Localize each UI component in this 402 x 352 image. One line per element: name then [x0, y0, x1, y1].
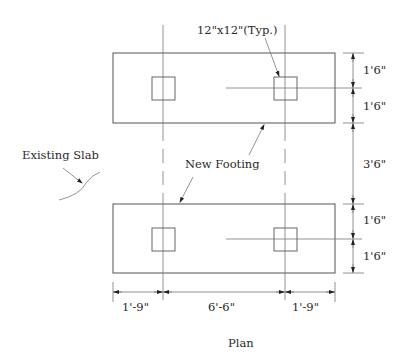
bottom-dimension-chain — [113, 282, 335, 302]
footing-plan-drawing: 12"x12"(Typ.) New Footing Existing Slab … — [0, 0, 402, 352]
column-upper-right — [274, 77, 297, 100]
column-lower-left — [152, 228, 175, 251]
dim-right-1: 1'6" — [363, 63, 386, 77]
column-size-label: 12"x12"(Typ.) — [197, 23, 278, 37]
new-footing-leader-up — [249, 125, 264, 155]
drawing-title: Plan — [228, 336, 254, 350]
dim-right-4: 1'6" — [363, 213, 386, 227]
column-upper-left — [152, 77, 175, 100]
dim-right-3: 3'6" — [363, 157, 386, 171]
dim-bottom-2: 6'-6" — [208, 300, 235, 314]
dim-bottom-3: 1'-9" — [292, 300, 319, 314]
column-lower-right — [274, 228, 297, 251]
lower-footing — [113, 204, 335, 273]
column-size-leader — [265, 38, 279, 76]
existing-slab-leader — [63, 168, 82, 183]
dim-right-2: 1'6" — [363, 99, 386, 113]
existing-slab-edge — [59, 172, 100, 200]
dim-bottom-1: 1'-9" — [122, 300, 149, 314]
new-footing-leader-down — [180, 177, 193, 202]
existing-slab-label: Existing Slab — [22, 148, 99, 162]
dim-right-5: 1'6" — [363, 249, 386, 263]
new-footing-label: New Footing — [185, 157, 260, 171]
right-dimension-chain — [343, 53, 364, 273]
